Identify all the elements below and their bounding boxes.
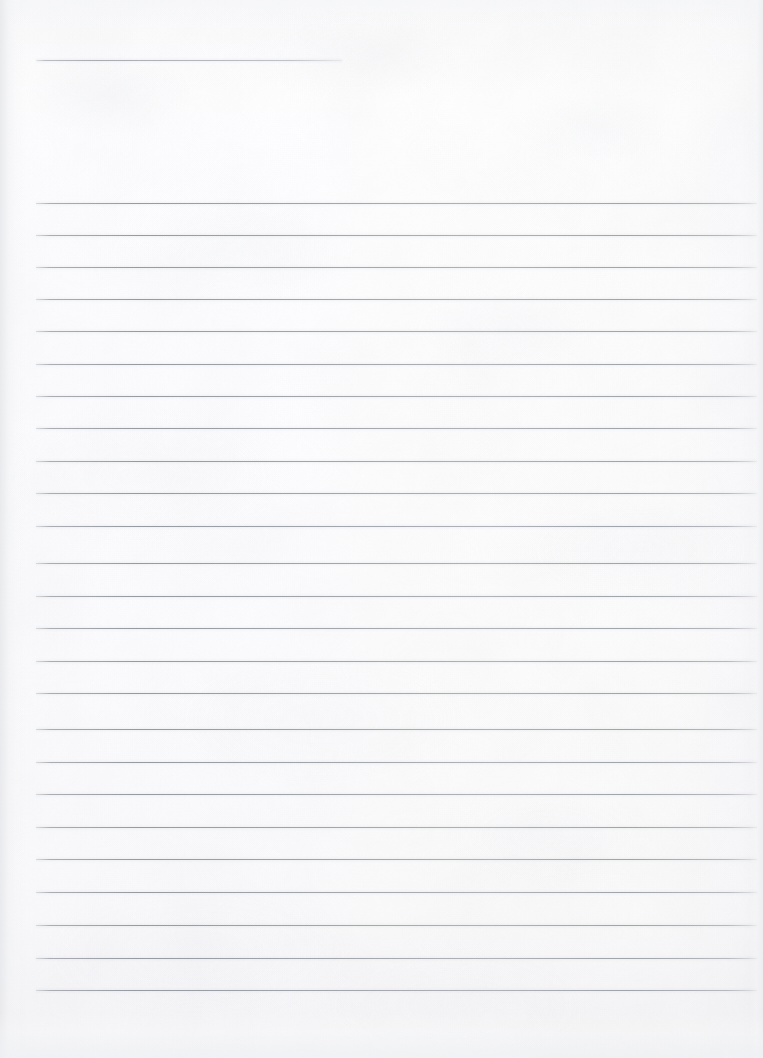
rule-ink [36,396,757,397]
rule-ink [36,628,757,629]
ruled-line-3 [36,267,757,268]
rule-ink [36,267,757,268]
rule-ink [36,859,757,860]
ruled-line-8 [36,428,757,429]
title-rule-line [36,60,342,61]
ruled-line-16 [36,693,757,694]
ruled-line-20 [36,827,757,828]
rule-ink [36,794,757,795]
rule-ink [36,827,757,828]
ruled-line-9 [36,461,757,462]
rule-ink [36,925,757,926]
ruled-line-23 [36,925,757,926]
ruled-line-6 [36,364,757,365]
ruled-lines-layer [0,0,763,1058]
rule-ink [36,526,757,527]
ruled-line-17 [36,729,757,730]
rule-ink [36,762,757,763]
rule-ink [36,729,757,730]
rule-ink [36,299,757,300]
rule-ink [36,493,757,494]
ruled-line-22 [36,892,757,893]
ruled-line-21 [36,859,757,860]
ruled-line-18 [36,762,757,763]
ruled-line-2 [36,235,757,236]
ruled-line-7 [36,396,757,397]
ruled-line-13 [36,596,757,597]
ruled-line-11 [36,526,757,527]
ruled-line-15 [36,661,757,662]
rule-ink [36,331,757,332]
rule-ink [36,461,757,462]
ruled-line-12 [36,563,757,564]
ruled-line-5 [36,331,757,332]
scanned-page [0,0,763,1058]
rule-ink [36,428,757,429]
rule-ink [36,661,757,662]
rule-ink [36,990,757,991]
rule-ink [36,60,342,61]
rule-ink [36,958,757,959]
ruled-line-10 [36,493,757,494]
rule-ink [36,693,757,694]
ruled-line-14 [36,628,757,629]
rule-ink [36,364,757,365]
rule-ink [36,563,757,564]
rule-ink [36,596,757,597]
ruled-line-19 [36,794,757,795]
ruled-line-25 [36,990,757,991]
ruled-line-24 [36,958,757,959]
ruled-line-4 [36,299,757,300]
rule-ink [36,892,757,893]
rule-ink [36,203,757,204]
rule-ink [36,235,757,236]
ruled-line-1 [36,203,757,204]
